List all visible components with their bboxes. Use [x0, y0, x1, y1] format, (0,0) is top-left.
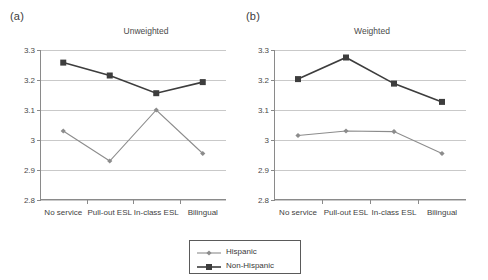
- x-tick-label: Pull-out ESL: [324, 208, 368, 217]
- panel-title-a: Unweighted: [0, 26, 268, 36]
- legend-label-non-hispanic: Non-Hispanic: [226, 261, 274, 270]
- y-tick-label: 3.3: [24, 46, 35, 55]
- x-tick-label: In-class ESL: [372, 208, 417, 217]
- series-line-hispanic: [298, 131, 442, 154]
- data-point-square: [343, 55, 349, 61]
- series-layer-b: [274, 50, 466, 200]
- series-line-non-hispanic: [63, 63, 203, 94]
- x-tick-mark: [322, 200, 323, 204]
- data-point-square: [200, 79, 206, 85]
- x-tick-label: Pull-out ESL: [88, 208, 132, 217]
- data-point-diamond: [295, 133, 300, 138]
- data-point-square: [60, 60, 66, 66]
- y-tick-label: 3.2: [24, 76, 35, 85]
- legend-item-non-hispanic: Non-Hispanic: [196, 258, 274, 272]
- y-tick-label: 2.8: [24, 196, 35, 205]
- x-tick-label: No service: [279, 208, 317, 217]
- series-layer-a: [40, 50, 226, 200]
- y-tick-label: 3.1: [258, 106, 269, 115]
- figure-container: (a) Unweighted 3.33.23.132.92.8 No servi…: [0, 0, 488, 280]
- data-point-square: [153, 90, 159, 96]
- x-tick-mark: [370, 200, 371, 204]
- chart-legend: Hispanic Non-Hispanic: [189, 240, 301, 274]
- legend-item-hispanic: Hispanic: [196, 244, 257, 258]
- series-line-non-hispanic: [298, 58, 442, 102]
- y-tick-label: 3: [31, 136, 35, 145]
- chart-panel-b: (b) Weighted 3.33.23.132.92.8 No service…: [236, 0, 480, 232]
- panel-label-a: (a): [10, 10, 24, 22]
- x-tick-mark: [418, 200, 419, 204]
- series-line-hispanic: [63, 110, 203, 161]
- x-tick-label: Bilingual: [427, 208, 457, 217]
- y-tick-label: 2.9: [258, 166, 269, 175]
- panel-title-b: Weighted: [236, 26, 488, 36]
- y-tick-mark: [271, 200, 275, 201]
- plot-area-b: 3.33.23.132.92.8 No servicePull-out ESLI…: [274, 50, 466, 200]
- x-tick-mark: [87, 200, 88, 204]
- x-tick-mark: [133, 200, 134, 204]
- x-tick-label: Bilingual: [188, 208, 218, 217]
- plot-area-a: 3.33.23.132.92.8 No servicePull-out ESLI…: [40, 50, 226, 200]
- chart-panel-a: (a) Unweighted 3.33.23.132.92.8 No servi…: [0, 0, 244, 232]
- data-point-diamond: [343, 128, 348, 133]
- legend-label-hispanic: Hispanic: [226, 247, 257, 256]
- data-point-square: [295, 76, 301, 82]
- y-tick-label: 3.1: [24, 106, 35, 115]
- data-point-square: [391, 81, 397, 87]
- data-point-diamond: [391, 129, 396, 134]
- data-point-diamond: [439, 151, 444, 156]
- y-tick-label: 2.8: [258, 196, 269, 205]
- y-tick-mark: [37, 200, 41, 201]
- data-point-square: [439, 99, 445, 105]
- x-tick-mark: [180, 200, 181, 204]
- x-tick-label: In-class ESL: [134, 208, 179, 217]
- y-tick-label: 3.2: [258, 76, 269, 85]
- y-tick-label: 2.9: [24, 166, 35, 175]
- panel-label-b: (b): [246, 10, 260, 22]
- y-tick-label: 3: [265, 136, 269, 145]
- legend-marker-diamond-icon: [196, 245, 222, 257]
- data-point-square: [107, 73, 113, 79]
- x-tick-label: No service: [44, 208, 82, 217]
- y-tick-label: 3.3: [258, 46, 269, 55]
- legend-marker-square-icon: [196, 259, 222, 271]
